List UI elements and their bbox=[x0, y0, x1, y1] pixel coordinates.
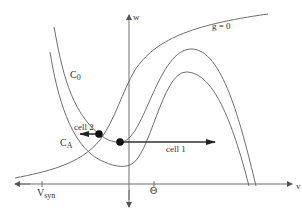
cell-2-label: cell 2 bbox=[74, 122, 94, 132]
c0-label: C0 bbox=[70, 69, 81, 82]
c0-cubic-curve bbox=[54, 27, 256, 186]
cell-1-label: cell 1 bbox=[166, 144, 186, 154]
cell-1-dot bbox=[116, 138, 124, 146]
phase-plane-diagram: w v g = 0 C0 CA cell 2 cell 1 Vsyn Θ bbox=[0, 0, 302, 211]
w-axis-label: w bbox=[133, 12, 140, 22]
theta-label: Θ bbox=[150, 185, 157, 196]
vsyn-label: Vsyn bbox=[37, 187, 55, 200]
ca-label: CA bbox=[60, 137, 73, 150]
g-nullcline-label: g = 0 bbox=[212, 21, 231, 31]
v-axis-label: v bbox=[296, 181, 301, 191]
cell-2-dot bbox=[95, 130, 103, 138]
